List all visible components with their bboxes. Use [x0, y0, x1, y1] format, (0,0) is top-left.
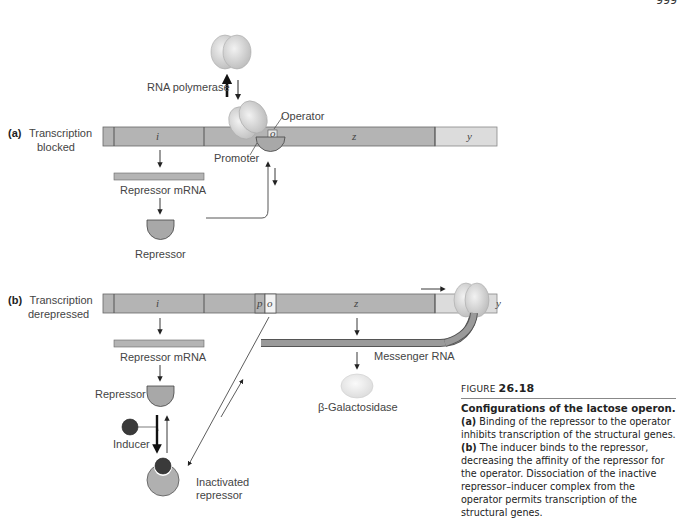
- panel-a-title: Transcription: [29, 127, 92, 139]
- bound-inducer-icon: [155, 458, 171, 474]
- figure-number: FIGURE 26.18: [461, 382, 676, 399]
- repressor-mrna-bar: [114, 173, 204, 180]
- gene-z-label-b: z: [353, 297, 359, 309]
- inactivated-label-line1: Inactivated: [196, 476, 249, 488]
- panel-a-label-line1: (a) Transcription: [8, 123, 92, 140]
- caption-part-b: (b) The inducer binds to the repressor, …: [461, 441, 676, 519]
- rna-polymerase-free-icon: [211, 35, 251, 69]
- panel-a: RNA polymerase i o z y Operator Promoter: [8, 35, 497, 260]
- caption-b-label: (b): [461, 442, 477, 453]
- repressor-mrna-bar-b: [114, 340, 204, 347]
- beta-galactosidase-icon: [341, 374, 373, 398]
- rna-polymerase-label: RNA polymerase: [147, 81, 230, 93]
- inducer-icon: [122, 419, 138, 435]
- repressor-label-a: Repressor: [135, 248, 186, 260]
- repressor-mrna-label-b: Repressor mRNA: [120, 351, 207, 363]
- gene-i-label: i: [156, 130, 159, 142]
- panel-a-letter: (a): [8, 127, 22, 139]
- caption-b-text: The inducer binds to the repressor, decr…: [461, 442, 664, 518]
- dna-strand-b: [103, 294, 497, 313]
- repressor-bound-icon: [256, 137, 285, 152]
- gene-z-label: z: [351, 130, 357, 142]
- caption-part-a: (a) Binding of the repressor to the oper…: [461, 415, 676, 441]
- repressor-icon-a: [147, 220, 174, 240]
- panel-a-label-line2: blocked: [37, 141, 75, 153]
- gene-p-label-b: p: [256, 297, 263, 309]
- dna-strand-a: [103, 127, 497, 146]
- figure-caption: FIGURE 26.18 Configurations of the lacto…: [461, 382, 676, 519]
- figure-prefix: FIGURE: [461, 384, 499, 394]
- panel-b: i p o z y Messenger RNA β-Galactosidase …: [8, 283, 501, 501]
- gene-i-label-b: i: [156, 297, 159, 309]
- rna-polymerase-transcribing-icon: [454, 283, 489, 317]
- caption-title: Configurations of the lactose operon.: [461, 402, 676, 415]
- figure-number-value: 26.18: [499, 382, 535, 395]
- panel-b-letter: (b): [8, 294, 22, 306]
- repressor-binding-path: [206, 164, 268, 218]
- panel-b-title: Transcription: [30, 294, 93, 306]
- inactivated-label-line2: repressor: [196, 489, 243, 501]
- inducer-connector: [138, 427, 158, 431]
- caption-a-label: (a): [461, 416, 476, 427]
- inducer-label: Inducer: [113, 438, 150, 450]
- beta-galactosidase-label: β-Galactosidase: [318, 401, 398, 413]
- panel-b-label-line2: derepressed: [28, 308, 89, 320]
- panel-b-label-line1: (b) Transcription: [8, 290, 93, 307]
- messenger-rna-label: Messenger RNA: [374, 350, 455, 362]
- repressor-mrna-label-a: Repressor mRNA: [120, 184, 207, 196]
- caption-a-text: Binding of the repressor to the operator…: [461, 416, 676, 440]
- gene-o-label-b: o: [267, 297, 273, 309]
- dissociation-arrow: [189, 317, 269, 464]
- repressor-icon-b: [147, 386, 174, 407]
- operator-label: Operator: [281, 110, 325, 122]
- promoter-label: Promoter: [214, 152, 260, 164]
- gene-y-label: y: [466, 130, 472, 142]
- gene-y-label-b: y: [495, 297, 501, 309]
- repressor-label-b: Repressor: [95, 388, 146, 400]
